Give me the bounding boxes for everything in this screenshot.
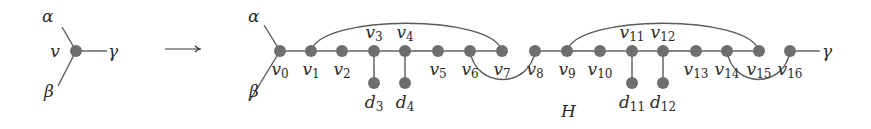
- node-v1: [305, 45, 317, 57]
- label-v9: v9: [558, 59, 575, 81]
- node-v15: [753, 45, 765, 57]
- labels: v0v1v2v3v4v5v6v7v8v9v10v11v12v13v14v15v1…: [248, 6, 833, 121]
- label-v15: v15: [747, 59, 772, 81]
- node-v0: [274, 45, 286, 57]
- node-v10: [594, 45, 606, 57]
- label-d11: d11: [619, 92, 645, 114]
- label-v6: v6: [461, 59, 478, 81]
- node-v8: [529, 45, 541, 57]
- right-graph-H: v0v1v2v3v4v5v6v7v8v9v10v11v12v13v14v15v1…: [248, 6, 833, 121]
- label-v2: v2: [333, 59, 350, 81]
- node-v16: [784, 45, 796, 57]
- external-label: β: [248, 81, 259, 101]
- label-d12: d12: [650, 92, 676, 114]
- node-v12: [657, 45, 669, 57]
- label-d4: d4: [396, 92, 415, 114]
- label-v12: v12: [651, 22, 676, 44]
- label-v7: v7: [493, 59, 510, 81]
- node-v2: [336, 45, 348, 57]
- node-v3: [368, 45, 380, 57]
- node-v9: [561, 45, 573, 57]
- label-v1: v1: [302, 59, 319, 81]
- node-v13: [690, 45, 702, 57]
- label-v3: v3: [365, 22, 382, 44]
- node-v6: [464, 45, 476, 57]
- left-graph: αβγv: [42, 6, 119, 101]
- label-v16: v16: [778, 59, 803, 81]
- graph-name-H: H: [560, 101, 577, 121]
- node-d4: [399, 77, 411, 89]
- node-v4: [399, 45, 411, 57]
- node-d11: [626, 77, 638, 89]
- node-v11: [626, 45, 638, 57]
- node-v5: [432, 45, 444, 57]
- edge-label: α: [42, 6, 54, 26]
- edge-label: γ: [108, 41, 119, 61]
- node-v7: [496, 45, 508, 57]
- label-d3: d3: [365, 92, 384, 114]
- label-v0: v0: [271, 59, 288, 81]
- label-v13: v13: [684, 59, 709, 81]
- label-v14: v14: [715, 59, 740, 81]
- transformation-arrow: [165, 46, 201, 52]
- label-v8: v8: [526, 59, 543, 81]
- node-label-v: v: [50, 41, 60, 61]
- node-v: [70, 45, 82, 57]
- label-v4: v4: [396, 22, 414, 44]
- graph-transformation-diagram: αβγv v0v1v2v3v4v5v6v7v8v9v10v11v12v13v14…: [0, 0, 871, 129]
- node-v14: [721, 45, 733, 57]
- edge-label: β: [43, 81, 54, 101]
- external-label: α: [248, 6, 260, 26]
- external-label: γ: [822, 41, 833, 61]
- node-d12: [657, 77, 669, 89]
- label-v5: v5: [429, 59, 446, 81]
- label-v10: v10: [588, 59, 613, 81]
- node-d3: [368, 77, 380, 89]
